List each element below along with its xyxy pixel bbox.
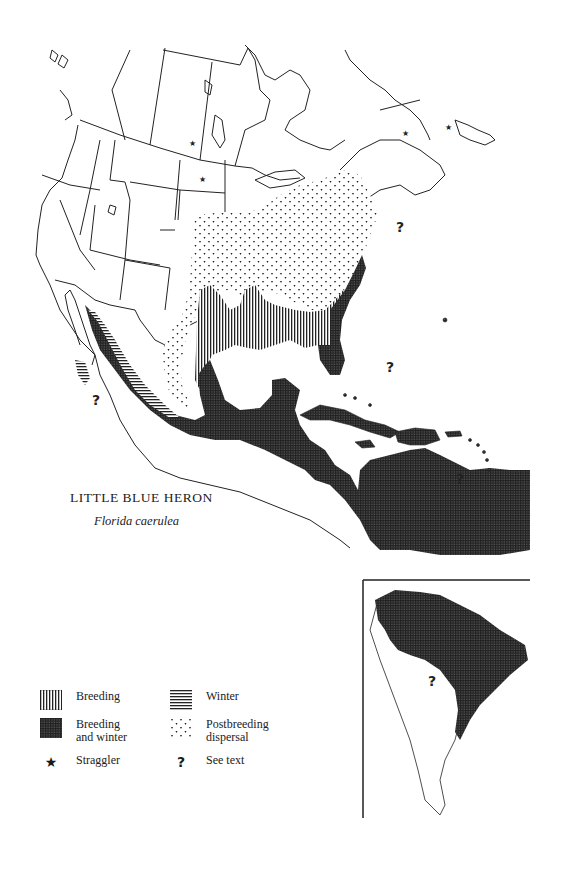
cuba <box>300 405 400 438</box>
breeding-swatch-icon <box>40 690 62 710</box>
straggler-star: ★ <box>189 139 196 148</box>
south-america-inset <box>363 580 530 818</box>
question-mark-south-america: ? <box>428 673 436 689</box>
postbreeding-swatch-icon <box>170 718 192 738</box>
scientific-name: Florida caerulea <box>94 514 179 529</box>
straggler-star: ★ <box>445 123 452 132</box>
map-title: LITTLE BLUE HERON <box>70 490 213 506</box>
hispaniola <box>395 428 440 445</box>
straggler-star: ★ <box>199 175 206 184</box>
legend-item-straggler: ★ Straggler <box>40 754 120 770</box>
legend-item-postbreeding: Postbreeding dispersal <box>170 718 269 744</box>
straggler-star: ★ <box>402 129 409 138</box>
question-mark-icon: ? <box>170 754 192 770</box>
straggler-markers: ★ ★ ★ ★ <box>189 123 452 184</box>
legend-item-see-text: ? See text <box>170 754 244 770</box>
legend-item-breeding-and-winter: Breeding and winter <box>40 718 127 744</box>
puerto-rico <box>445 431 462 437</box>
question-mark-pacific: ? <box>92 392 100 408</box>
winter-baja <box>75 360 90 385</box>
star-icon: ★ <box>40 754 62 770</box>
winter-swatch-icon <box>170 690 192 710</box>
south-america-breeding-winter <box>375 590 528 740</box>
question-mark-caribbean: ? <box>456 471 464 487</box>
breeding-and-winter-swatch-icon <box>40 718 62 738</box>
jamaica <box>355 440 375 448</box>
legend-item-breeding: Breeding <box>40 690 120 710</box>
question-mark-bahamas: ? <box>386 359 394 375</box>
legend-item-winter: Winter <box>170 690 239 710</box>
question-mark-atlantic: ? <box>396 219 404 235</box>
